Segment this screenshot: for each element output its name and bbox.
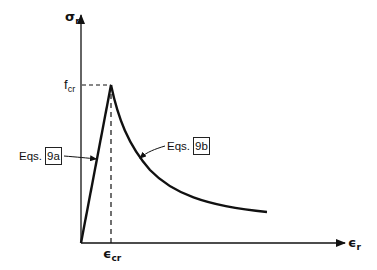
eq9b-annotation: Eqs.9b [167,137,210,155]
eq9a-ref-box: 9a [45,147,62,165]
x-axis-subscript: r [356,242,360,252]
peak-stress-label: fcr [64,77,75,92]
y-axis-symbol: σ [65,9,75,24]
peak-strain-label: ϵcr [103,246,121,261]
eq9b-prefix: Eqs. [167,140,190,152]
x-axis-label: ϵr [348,235,361,250]
eq9a-leader-arrow [64,156,96,159]
eq9b-leader-arrow [140,146,165,158]
stress-strain-diagram [0,0,377,270]
y-axis-subscript: r [75,16,79,26]
eq9a-prefix: Eqs. [19,150,42,162]
eq9b-ref-box: 9b [193,137,210,155]
peak-strain-subscript: cr [111,253,121,263]
peak-stress-subscript: cr [68,84,76,94]
rising-branch-curve [81,85,111,243]
eq9a-annotation: Eqs.9a [19,147,62,165]
y-axis-label: σr [65,9,80,24]
